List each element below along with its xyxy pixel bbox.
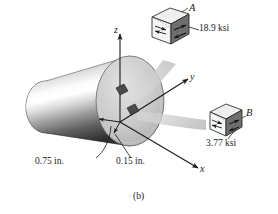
stress-value-a: 18.9 ksi bbox=[199, 24, 229, 34]
stress-value-b: 3.77 ksi bbox=[206, 139, 236, 149]
engineering-diagram-svg bbox=[0, 0, 278, 214]
axis-label-x: x bbox=[200, 164, 204, 174]
dimension-label-inner-offset: 0.15 in. bbox=[116, 157, 145, 167]
stress-cube-b bbox=[210, 104, 246, 139]
stress-element-label-b: B bbox=[246, 108, 252, 119]
cube-a-value-leader bbox=[189, 27, 199, 30]
axis-label-y: y bbox=[190, 72, 194, 82]
figure-caption: (b) bbox=[133, 192, 144, 202]
figure-container: z y x A 18.9 ksi B 3.77 ksi 0.75 in. 0.1… bbox=[0, 0, 278, 214]
stress-element-label-a: A bbox=[189, 3, 195, 14]
cylinder-group bbox=[26, 56, 164, 146]
cube-a-label-leader bbox=[182, 8, 188, 12]
dimension-label-outer-radius: 0.75 in. bbox=[35, 157, 64, 167]
axis-label-z: z bbox=[114, 25, 118, 35]
